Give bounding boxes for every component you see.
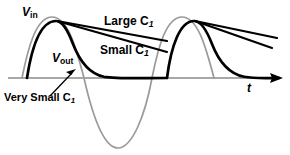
small-c1-label-text: Small C [100,43,144,57]
very-small-c1-label-subscript: 1 [71,96,75,105]
vout-label-subscript: out [60,56,73,66]
vin-label: Vin [22,6,38,18]
vout-label: Vout [52,52,73,64]
waveform-figure: Vin Vout Large C1 Small C1 Very Small C1… [0,0,290,155]
small-c1-label-subscript: 1 [144,48,149,58]
very-small-c1-label: Very Small C1 [4,92,75,103]
vin-label-symbol: V [22,5,30,19]
small-c1-label: Small C1 [100,44,149,56]
large-c1-label: Large C1 [104,15,153,27]
very-small-c1-label-text: Very Small C [4,91,71,103]
t-axis-label: t [247,82,251,94]
vin-label-subscript: in [30,10,38,20]
t-axis-label-text: t [247,81,251,95]
vout-label-symbol: V [52,51,60,65]
large-c1-label-text: Large C [104,14,149,28]
vin-sine-curve [22,17,214,148]
large-c1-label-subscript: 1 [149,19,154,29]
